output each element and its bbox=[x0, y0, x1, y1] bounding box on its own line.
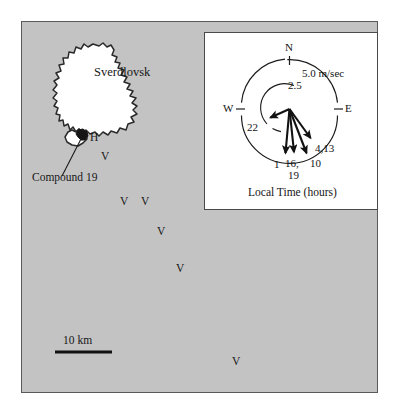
wind-arrow-1 bbox=[286, 109, 290, 153]
rose-ring-label-outer: 5.0 m/sec bbox=[302, 68, 344, 79]
rose-hour-label-10: 10 bbox=[310, 158, 321, 169]
rose-ring-label-inner: 2.5 bbox=[288, 80, 302, 91]
rose-caption: Local Time (hours) bbox=[248, 187, 337, 199]
wind-arrow-22 bbox=[271, 109, 290, 118]
rose-hour-label-16: 16, bbox=[285, 158, 299, 169]
rose-hour-label-19: 19 bbox=[288, 170, 299, 181]
rose-label-north: N bbox=[285, 42, 293, 53]
rose-hour-label-22: 22 bbox=[247, 122, 258, 133]
rose-hour-label-1: 1 bbox=[274, 159, 280, 170]
wind-rose-vector-layer bbox=[0, 0, 400, 409]
rose-label-east: E bbox=[345, 103, 352, 114]
rose-hour-label-4-13: 4,13 bbox=[315, 143, 334, 154]
figure-root: Sverdlovsk H Compound 19 10 km V V V V V… bbox=[0, 0, 400, 409]
rose-label-west: W bbox=[223, 103, 233, 114]
